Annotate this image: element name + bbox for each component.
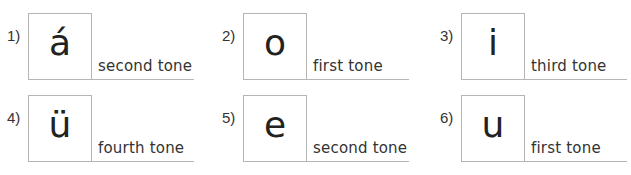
tone-label: second tone (98, 57, 192, 75)
exercise-item-2: 2) o first tone (222, 13, 422, 93)
item-number: 4) (7, 109, 20, 126)
exercise-item-3: 3) i third tone (440, 13, 631, 93)
letter-box: i (461, 13, 525, 79)
pinyin-letter: ü (29, 104, 91, 145)
tone-label: first tone (313, 57, 383, 75)
letter-box: u (461, 95, 525, 161)
pinyin-letter: i (462, 22, 524, 63)
tone-label: fourth tone (98, 139, 184, 157)
tone-label: first tone (531, 139, 601, 157)
letter-box: e (243, 95, 307, 161)
exercise-item-1: 1) á second tone (7, 13, 207, 93)
pinyin-letter: e (244, 104, 306, 145)
answer-line (28, 79, 194, 80)
letter-box: ü (28, 95, 92, 161)
exercise-item-6: 6) u first tone (440, 95, 631, 175)
tone-label: third tone (531, 57, 607, 75)
pinyin-letter: á (29, 22, 91, 63)
item-number: 2) (222, 27, 235, 44)
tone-label: second tone (313, 139, 407, 157)
letter-box: o (243, 13, 307, 79)
letter-box: á (28, 13, 92, 79)
exercise-item-4: 4) ü fourth tone (7, 95, 207, 175)
item-number: 5) (222, 109, 235, 126)
answer-line (243, 79, 409, 80)
item-number: 3) (440, 27, 453, 44)
pinyin-letter: u (462, 104, 524, 145)
item-number: 1) (7, 27, 20, 44)
item-number: 6) (440, 109, 453, 126)
answer-line (243, 161, 409, 162)
pinyin-letter: o (244, 22, 306, 63)
answer-line (461, 161, 627, 162)
answer-line (461, 79, 627, 80)
exercise-item-5: 5) e second tone (222, 95, 422, 175)
answer-line (28, 161, 194, 162)
